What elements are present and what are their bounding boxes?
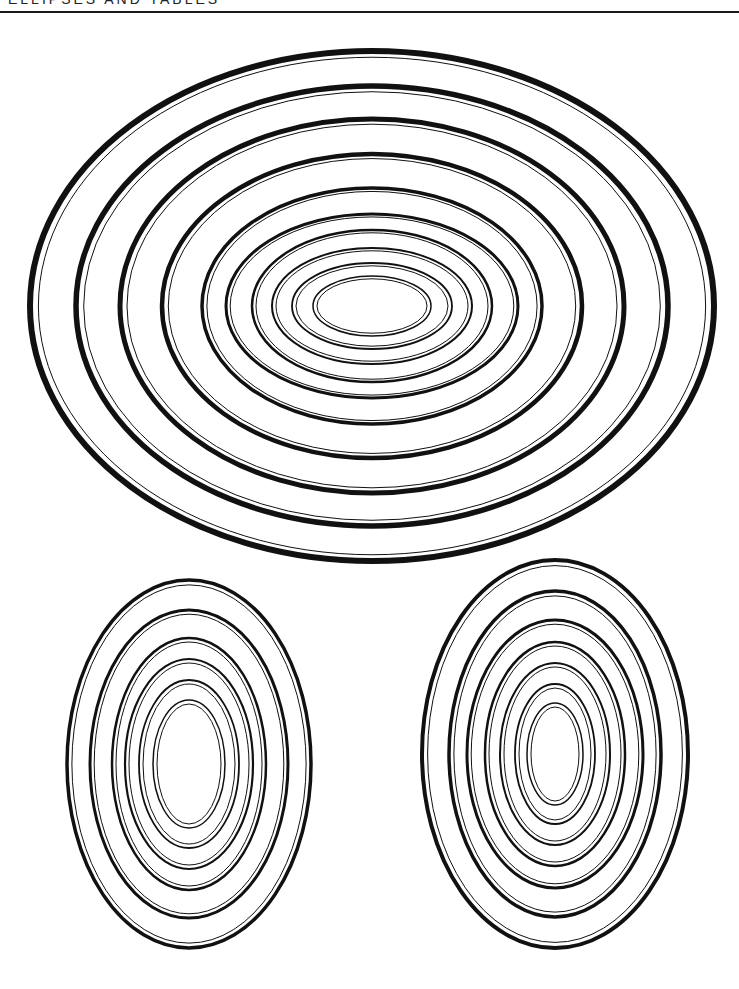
ellipse-ring-outer bbox=[125, 659, 253, 869]
ellipse-ring-outer bbox=[112, 638, 266, 890]
ellipse-ring-inner-line bbox=[256, 233, 488, 379]
ellipse-ring-inner-line bbox=[129, 663, 249, 865]
ellipse-ring-outer bbox=[252, 230, 492, 382]
ellipse-ring-outer bbox=[90, 610, 288, 918]
ellipse-ring-outer bbox=[500, 663, 610, 845]
ellipse-ring-outer bbox=[527, 703, 583, 805]
ellipse-ring-inner-line bbox=[276, 251, 468, 361]
ellipse-ring-outer bbox=[30, 51, 714, 561]
ellipse-ring-inner-line bbox=[157, 704, 221, 824]
ellipse-ring-inner-line bbox=[168, 159, 575, 454]
ellipse-ring-outer bbox=[139, 680, 239, 848]
ellipse-ring-outer bbox=[153, 700, 225, 828]
ellipse-ring-outer bbox=[422, 560, 688, 948]
ellipse-ring-outer bbox=[485, 642, 625, 866]
ellipse-ring-outer bbox=[120, 119, 624, 493]
ellipse-ring-outer bbox=[67, 580, 311, 948]
ellipse-ring-outer bbox=[449, 591, 661, 917]
ellipse-ring-outer bbox=[313, 276, 431, 336]
ellipse-ring-inner-line bbox=[519, 688, 591, 820]
ellipse-ring-inner-line bbox=[116, 642, 262, 886]
bottom-left-vertical-ellipse-set bbox=[67, 580, 311, 948]
ellipse-ring-outer bbox=[226, 214, 518, 398]
bottom-right-vertical-ellipse-set bbox=[422, 560, 688, 948]
large-horizontal-ellipse-set bbox=[30, 51, 714, 561]
ellipse-ring-inner-line bbox=[489, 646, 621, 862]
concentric-ellipses-illustration bbox=[0, 0, 739, 989]
ellipse-ring-inner-line bbox=[38, 57, 705, 554]
ellipse-ring-outer bbox=[467, 620, 643, 888]
ellipse-ring-inner-line bbox=[317, 279, 427, 333]
ellipse-ring-inner-line bbox=[296, 266, 448, 346]
ellipse-ring-inner-line bbox=[531, 707, 579, 801]
